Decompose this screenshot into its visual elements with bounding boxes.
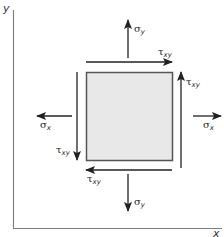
svg-text:τxy: τxy — [56, 144, 71, 157]
svg-text:σy: σy — [134, 196, 146, 209]
y-axis-label: y — [2, 2, 10, 15]
tau-subscript: xy — [61, 149, 71, 157]
tau-xy-right-arrow: τxy — [181, 72, 201, 168]
tau-subscript: xy — [163, 51, 173, 59]
tau-xy-top-arrow: τxy — [86, 46, 173, 62]
sigma-y-bottom-arrow: σy — [128, 174, 146, 211]
sigma-x-right-arrow: σx — [193, 116, 221, 132]
tau-subscript: xy — [191, 81, 201, 89]
svg-text:τxy: τxy — [158, 46, 173, 59]
svg-text:τxy: τxy — [186, 76, 201, 89]
svg-text:σx: σx — [203, 119, 215, 132]
sigma-subscript: x — [209, 124, 215, 132]
stress-element — [87, 73, 173, 161]
svg-text:σy: σy — [134, 23, 146, 36]
tau-xy-bottom-arrow: τxy — [86, 170, 172, 186]
svg-text:σx: σx — [40, 119, 52, 132]
stress-element-diagram: y x τxy σy τxy σx τxy σx τxy σy — [0, 0, 224, 237]
sigma-subscript: y — [140, 201, 146, 209]
sigma-x-left-arrow: σx — [37, 116, 72, 132]
sigma-y-top-arrow: σy — [128, 20, 146, 58]
sigma-subscript: y — [140, 28, 146, 36]
svg-text:τxy: τxy — [87, 173, 102, 186]
tau-subscript: xy — [92, 178, 102, 186]
x-axis-label: x — [212, 227, 220, 237]
sigma-subscript: x — [46, 124, 52, 132]
